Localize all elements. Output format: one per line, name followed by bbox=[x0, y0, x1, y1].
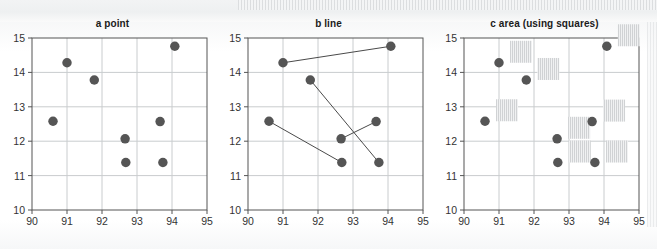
x-tick-label: 91 bbox=[61, 215, 73, 227]
y-tick-label: 11 bbox=[446, 170, 457, 182]
data-point bbox=[306, 75, 315, 84]
y-tick-label: 13 bbox=[229, 101, 241, 113]
x-tick-label: 94 bbox=[598, 215, 610, 227]
x-tick-label: 91 bbox=[277, 215, 289, 227]
data-point bbox=[494, 58, 503, 67]
data-point bbox=[590, 158, 599, 167]
data-point bbox=[170, 42, 179, 51]
x-tick-label: 90 bbox=[26, 215, 38, 227]
y-tick-label: 10 bbox=[229, 204, 241, 216]
x-tick-label: 92 bbox=[96, 215, 108, 227]
x-tick-label: 93 bbox=[563, 215, 575, 227]
data-point bbox=[336, 134, 345, 143]
y-tick-label: 14 bbox=[229, 66, 241, 78]
y-tick-label: 12 bbox=[445, 135, 457, 147]
data-point bbox=[120, 134, 129, 143]
data-point bbox=[158, 158, 167, 167]
data-point bbox=[90, 75, 99, 84]
figure-canvas: a point 909192939495101112131415 b line … bbox=[0, 0, 657, 249]
x-tick-label: 92 bbox=[312, 215, 324, 227]
data-point bbox=[121, 158, 130, 167]
data-point bbox=[371, 117, 380, 126]
x-tick-label: 90 bbox=[242, 215, 254, 227]
data-point bbox=[552, 134, 561, 143]
y-tick-label: 12 bbox=[13, 135, 25, 147]
data-point bbox=[278, 58, 287, 67]
data-point bbox=[602, 42, 611, 51]
y-tick-label: 11 bbox=[14, 170, 25, 182]
y-tick-label: 10 bbox=[445, 204, 457, 216]
data-point bbox=[48, 117, 57, 126]
data-point bbox=[62, 58, 71, 67]
data-point bbox=[553, 158, 562, 167]
y-tick-label: 12 bbox=[229, 135, 241, 147]
x-tick-label: 90 bbox=[458, 215, 470, 227]
data-point bbox=[480, 117, 489, 126]
data-point bbox=[155, 117, 164, 126]
data-point bbox=[337, 158, 346, 167]
x-tick-label: 95 bbox=[417, 215, 429, 227]
panel-b-line: b line 909192939495101112131415 bbox=[216, 0, 441, 249]
x-tick-label: 94 bbox=[382, 215, 394, 227]
x-tick-label: 95 bbox=[633, 215, 645, 227]
data-point bbox=[587, 117, 596, 126]
data-point bbox=[522, 75, 531, 84]
x-tick-label: 92 bbox=[528, 215, 540, 227]
y-tick-label: 14 bbox=[445, 66, 457, 78]
plot-area-c: 909192939495101112131415 bbox=[432, 0, 657, 249]
y-tick-label: 15 bbox=[445, 32, 457, 44]
y-tick-label: 14 bbox=[13, 66, 25, 78]
plot-area-b: 909192939495101112131415 bbox=[216, 0, 441, 249]
x-tick-label: 91 bbox=[493, 215, 505, 227]
y-tick-label: 13 bbox=[13, 101, 25, 113]
plot-area-a: 909192939495101112131415 bbox=[0, 0, 225, 249]
y-tick-label: 15 bbox=[13, 32, 25, 44]
panel-c-area: c area (using squares) 90919293949510111… bbox=[432, 0, 657, 249]
y-tick-label: 15 bbox=[229, 32, 241, 44]
y-tick-label: 10 bbox=[13, 204, 25, 216]
data-point bbox=[374, 158, 383, 167]
x-tick-label: 93 bbox=[347, 215, 359, 227]
data-point bbox=[264, 117, 273, 126]
data-point bbox=[386, 42, 395, 51]
x-tick-label: 94 bbox=[166, 215, 178, 227]
y-tick-label: 11 bbox=[230, 170, 241, 182]
x-tick-label: 95 bbox=[201, 215, 213, 227]
panel-a-point: a point 909192939495101112131415 bbox=[0, 0, 225, 249]
x-tick-label: 93 bbox=[131, 215, 143, 227]
y-tick-label: 13 bbox=[445, 101, 457, 113]
